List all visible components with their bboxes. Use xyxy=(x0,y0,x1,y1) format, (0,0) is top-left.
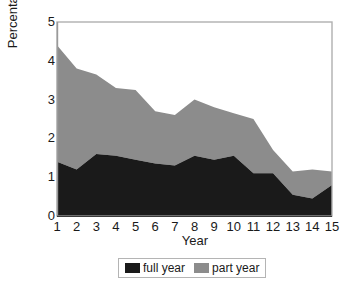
chart-legend: full year part year xyxy=(118,258,266,278)
legend-item-full-year: full year xyxy=(125,262,185,274)
legend-label-full-year: full year xyxy=(143,262,185,274)
legend-swatch-part-year xyxy=(194,263,209,273)
x-tick-label-15: 15 xyxy=(321,220,343,233)
legend-swatch-full-year xyxy=(125,263,140,273)
legend-item-part-year: part year xyxy=(194,262,259,274)
chart-container: Percentage 5 4 3 2 1 0 12345678910111213… xyxy=(0,0,356,298)
x-axis-title: Year xyxy=(57,233,333,248)
legend-label-part-year: part year xyxy=(212,262,259,274)
plot-area xyxy=(0,0,356,298)
